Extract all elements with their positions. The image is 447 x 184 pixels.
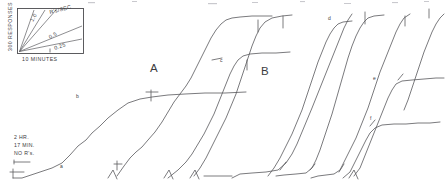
trace-segment-2 <box>117 16 272 176</box>
inset-unit-label: R's/SEC <box>49 4 72 15</box>
trace-segment-11 <box>404 14 444 110</box>
phase-labels: A B <box>150 62 269 77</box>
trace-segment-8 <box>311 14 410 178</box>
trace-segment-5 <box>232 14 352 178</box>
trace-segment-9 <box>343 122 440 178</box>
segment-marker-d: d <box>328 15 331 21</box>
trace-segment-7 <box>276 15 384 176</box>
trace-segment-6 <box>268 21 352 176</box>
rate-calibration-inset: 1.0 0.5 0.25 R's/SEC 300 RESPONSES 10 MI… <box>7 2 84 62</box>
figure-canvas: 1.0 0.5 0.25 R's/SEC 300 RESPONSES 10 MI… <box>0 0 447 184</box>
note-line-3: NO R's. <box>14 150 34 156</box>
inset-slope-label-05: 0.5 <box>48 31 58 40</box>
segment-marker-a: a <box>60 163 63 169</box>
segment-markers: a b c d e f <box>60 15 376 169</box>
cumulative-record-figure: 1.0 0.5 0.25 R's/SEC 300 RESPONSES 10 MI… <box>0 0 447 184</box>
trace-segment-10 <box>354 78 444 176</box>
inset-y-axis-label: 300 RESPONSES <box>7 2 13 51</box>
inset-x-axis-label: 10 MINUTES <box>22 56 58 62</box>
scan-artifacts <box>88 1 429 4</box>
note-leader-line <box>14 160 30 164</box>
trace-segment-4 <box>194 15 292 176</box>
segment-marker-e: e <box>373 75 376 81</box>
segment-marker-b: b <box>76 93 79 99</box>
note-line-1: 2 HR. <box>14 134 29 140</box>
inset-slope-label-1: 1.0 <box>29 12 38 22</box>
inset-slope-rays <box>20 10 83 52</box>
note-line-2: 17 MIN. <box>14 142 35 148</box>
trace-segment-3 <box>168 52 290 178</box>
trace-segment-1 <box>13 92 246 178</box>
session-start-note: 2 HR. 17 MIN. NO R's. <box>14 134 35 164</box>
phase-label-b: B <box>261 65 269 77</box>
phase-label-a: A <box>150 62 158 74</box>
inset-slope-label-025: 0.25 <box>53 41 66 51</box>
segment-marker-c: c <box>220 57 223 63</box>
segment-marker-f: f <box>370 115 372 121</box>
